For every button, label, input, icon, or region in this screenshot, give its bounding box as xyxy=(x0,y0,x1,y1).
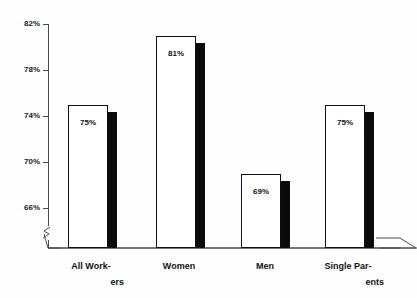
bar-value-label: 81% xyxy=(156,49,196,58)
bar-side-face xyxy=(281,181,290,249)
category-label-men: Men xyxy=(232,258,298,274)
bar-value-label: 69% xyxy=(241,187,281,196)
bar-side-face xyxy=(108,112,117,249)
bar-side-face xyxy=(196,43,205,249)
bar-chart: 82% 78% 74% 70% 66% xyxy=(0,0,417,298)
category-label-line1: All Work- xyxy=(71,261,110,271)
bar-value-label: 75% xyxy=(325,118,365,127)
plot-area: 75% 81% 69% xyxy=(0,0,417,298)
category-label-single-parents: Single Par- ents xyxy=(312,258,384,290)
category-label-line1: Men xyxy=(256,261,274,271)
category-label-line2: ents xyxy=(312,274,384,290)
category-label-women: Women xyxy=(146,258,212,274)
category-label-line1: Single Par- xyxy=(324,261,371,271)
bar-side-face xyxy=(365,112,374,249)
bar-men[interactable] xyxy=(241,174,281,249)
category-label-line2: ers xyxy=(58,274,124,290)
category-label-line1: Women xyxy=(163,261,195,271)
bar-women[interactable] xyxy=(156,36,196,249)
category-label-all-workers: All Work- ers xyxy=(58,258,124,290)
bar-value-label: 75% xyxy=(68,118,108,127)
